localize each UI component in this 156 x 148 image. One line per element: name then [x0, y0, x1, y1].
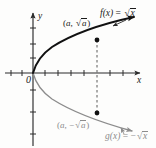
function-label-g: g(x) = −√x [105, 131, 148, 142]
function-arg: (x) [110, 131, 121, 141]
point-upper-label: (a, √a) [63, 18, 90, 28]
radicand: x [142, 131, 148, 142]
point-lower-label: (a, −√a) [57, 120, 89, 130]
equals-sign: = [120, 131, 130, 141]
y-axis-label: y [38, 12, 42, 22]
paren-close: ) [87, 18, 90, 28]
paren-close: ) [86, 120, 89, 130]
point-upper-marker [95, 38, 100, 43]
radicand: a [81, 18, 87, 28]
radicand: a [80, 120, 86, 130]
radicand: x [130, 8, 136, 19]
radical-lower: √a [74, 120, 86, 130]
function-label-f: f(x) = √x [100, 8, 136, 19]
radical-f: √x [123, 8, 135, 19]
origin-label: 0 [26, 75, 31, 85]
point-lower-marker [95, 111, 100, 116]
x-axis-label: x [137, 76, 141, 86]
square-root-function-figure: 0 y x (a, √a) (a, −√a) f(x) = √x g(x) = … [0, 0, 156, 148]
function-arg: (x) [103, 8, 114, 18]
radical-g: √x [136, 131, 148, 142]
radical-upper: √a [75, 18, 87, 28]
equals-sign: = [113, 8, 123, 18]
